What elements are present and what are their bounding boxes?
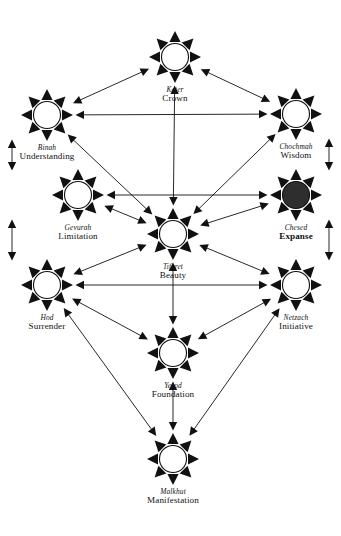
node-spike [72, 169, 83, 180]
sephira-node-keter[interactable] [149, 31, 201, 83]
node-spike [147, 228, 158, 239]
node-spike [270, 189, 281, 200]
sephira-node-gevurah[interactable] [52, 169, 104, 221]
node-spike [149, 51, 160, 62]
node-spike [311, 189, 322, 200]
node-spike [21, 279, 32, 290]
sephira-node-binah[interactable] [21, 89, 73, 141]
node-spike [167, 249, 178, 260]
node-spike [167, 327, 178, 338]
node-layer [21, 31, 322, 485]
node-circle[interactable] [160, 221, 187, 248]
node-spike [290, 210, 301, 221]
sephira-node-yesod[interactable] [147, 327, 199, 379]
sephira-node-chesed[interactable] [270, 169, 322, 221]
node-circle[interactable] [283, 272, 310, 299]
node-spike [41, 89, 52, 100]
node-spike [190, 51, 201, 62]
node-spike [93, 189, 104, 200]
node-spike [311, 108, 322, 119]
node-spike [290, 300, 301, 311]
node-spike [290, 88, 301, 99]
sephira-node-malkhut[interactable] [147, 433, 199, 485]
node-spike [167, 433, 178, 444]
sephira-node-chochmah[interactable] [270, 88, 322, 140]
node-spike [188, 347, 199, 358]
node-spike [290, 129, 301, 140]
diagram-canvas [0, 0, 341, 536]
node-circle[interactable] [34, 272, 61, 299]
node-spike [21, 109, 32, 120]
node-spike [290, 169, 301, 180]
node-spike [270, 279, 281, 290]
node-circle[interactable] [160, 340, 187, 367]
node-spike [41, 300, 52, 311]
tree-of-life-diagram: KeterCrownBinahUnderstandingChochmahWisd… [0, 0, 341, 536]
node-spike [188, 453, 199, 464]
node-spike [169, 72, 180, 83]
node-circle[interactable] [162, 44, 189, 71]
node-spike [167, 368, 178, 379]
node-spike [167, 474, 178, 485]
node-spike [72, 210, 83, 221]
node-spike [147, 453, 158, 464]
node-circle[interactable] [34, 102, 61, 129]
node-spike [62, 109, 73, 120]
sephira-node-hod[interactable] [21, 259, 73, 311]
node-spike [169, 31, 180, 42]
node-spike [290, 259, 301, 270]
node-spike [188, 228, 199, 239]
node-spike [41, 259, 52, 270]
sephira-node-netzach[interactable] [270, 259, 322, 311]
node-spike [62, 279, 73, 290]
node-circle[interactable] [160, 446, 187, 473]
node-spike [270, 108, 281, 119]
node-spike [52, 189, 63, 200]
node-spike [167, 208, 178, 219]
node-circle[interactable] [283, 182, 310, 209]
node-circle[interactable] [65, 182, 92, 209]
node-circle[interactable] [283, 101, 310, 128]
sephira-node-tiferet[interactable] [147, 208, 199, 260]
node-spike [311, 279, 322, 290]
node-spike [147, 347, 158, 358]
node-spike [41, 130, 52, 141]
